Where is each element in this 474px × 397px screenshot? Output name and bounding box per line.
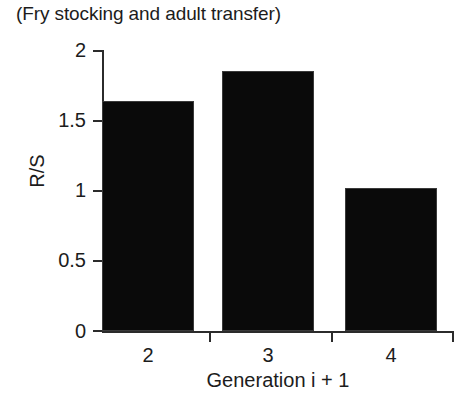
bar-generation-2 bbox=[102, 101, 194, 331]
x-tick-label-2: 2 bbox=[106, 344, 190, 366]
y-tick-label-2: 2 bbox=[75, 40, 86, 60]
y-axis-title: R/S bbox=[26, 139, 48, 203]
plot-area bbox=[102, 50, 452, 331]
y-tick-label-1.5: 1.5 bbox=[58, 110, 86, 130]
x-tick-label-3: 3 bbox=[226, 344, 310, 366]
y-tick-label-0.5: 0.5 bbox=[58, 250, 86, 270]
y-tick-mark-1 bbox=[93, 190, 102, 192]
chart-title: (Fry stocking and adult transfer) bbox=[16, 2, 281, 26]
x-tick-mark-2 bbox=[331, 333, 333, 342]
y-tick-mark-2 bbox=[93, 50, 102, 52]
bar-generation-3 bbox=[222, 71, 314, 331]
x-axis-title: Generation i + 1 bbox=[102, 368, 454, 392]
bar-chart-figure: (Fry stocking and adult transfer) 0 0.5 … bbox=[0, 0, 474, 397]
x-tick-label-4: 4 bbox=[349, 344, 433, 366]
x-tick-mark-3 bbox=[452, 333, 454, 342]
y-tick-mark-1.5 bbox=[93, 120, 102, 122]
bar-generation-4 bbox=[345, 188, 437, 331]
x-axis-line bbox=[102, 331, 454, 333]
y-tick-mark-0.5 bbox=[93, 260, 102, 262]
x-tick-mark-1 bbox=[209, 333, 211, 342]
y-tick-label-0: 0 bbox=[75, 321, 86, 341]
y-tick-label-1: 1 bbox=[75, 180, 86, 200]
y-tick-mark-0 bbox=[93, 330, 102, 332]
